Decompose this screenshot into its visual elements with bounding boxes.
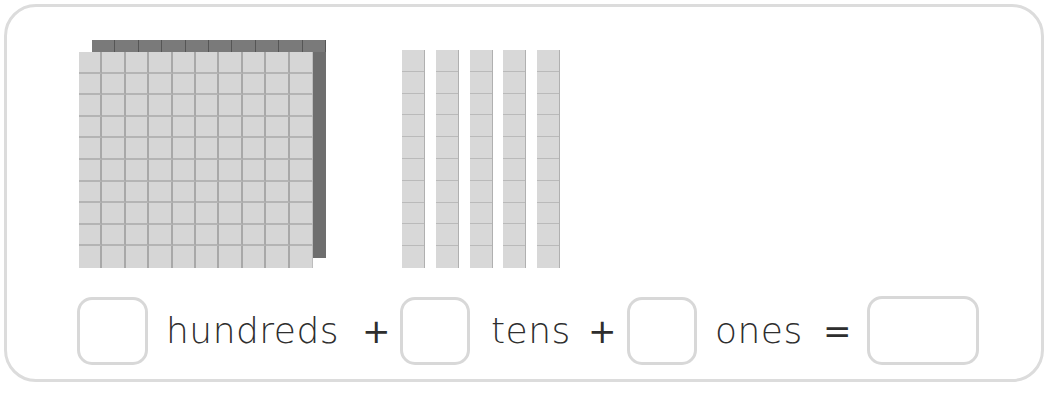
ones-answer-box[interactable]	[627, 297, 697, 365]
equation-row: hundreds + tens + ones =	[0, 0, 1062, 408]
equals-sign: =	[823, 306, 852, 356]
tens-answer-box[interactable]	[400, 297, 470, 365]
hundreds-answer-box[interactable]	[77, 297, 148, 365]
tens-label: tens	[491, 306, 571, 356]
ones-label: ones	[715, 306, 803, 356]
total-answer-box[interactable]	[867, 296, 979, 365]
plus-sign-2: +	[588, 306, 617, 356]
plus-sign-1: +	[362, 306, 391, 356]
hundreds-label: hundreds	[166, 306, 339, 356]
